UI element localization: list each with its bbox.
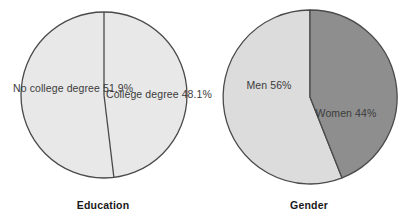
- education-pie-svg: [0, 0, 206, 224]
- pie-chart-figure: No college degree 51.9% College degree 4…: [0, 0, 412, 224]
- gender-slice-label-men: Men 56%: [226, 79, 312, 92]
- education-slice-label-no-college-degree: No college degree 51.9%: [13, 82, 113, 95]
- gender-slice-label-women: Women 44%: [300, 107, 392, 120]
- gender-chart-caption: Gender: [206, 199, 412, 211]
- chart-panel-gender: Men 56% Women 44% Gender: [206, 0, 412, 224]
- education-chart-caption: Education: [0, 199, 206, 211]
- chart-panel-education: No college degree 51.9% College degree 4…: [0, 0, 206, 224]
- education-slice-label-college-degree: College degree 48.1%: [106, 88, 192, 101]
